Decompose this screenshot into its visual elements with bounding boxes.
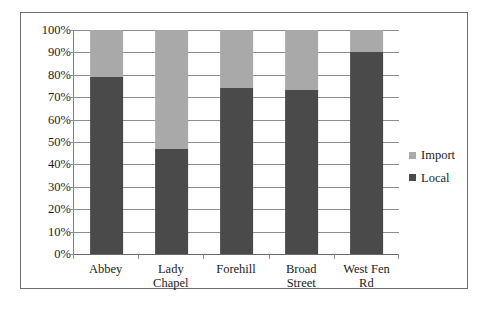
x-axis-tick-mark xyxy=(203,254,204,259)
x-axis-category-label-line: Rd xyxy=(334,276,399,290)
bar-segment-import[interactable] xyxy=(90,30,124,77)
y-axis-tick-label: 90% xyxy=(25,46,71,59)
bar-segment-local[interactable] xyxy=(285,90,319,254)
legend-item-label: Local xyxy=(421,172,449,185)
y-axis-tick-label: 50% xyxy=(25,136,71,149)
x-axis-category-label-line: Forehill xyxy=(203,262,268,276)
bar-slot xyxy=(74,30,139,254)
bar-series-layer xyxy=(74,30,399,254)
stacked-bar[interactable] xyxy=(90,30,124,254)
y-axis-tick-label: 100% xyxy=(25,24,71,37)
bar-slot xyxy=(334,30,399,254)
x-axis-category-label: LadyChapel xyxy=(138,262,203,291)
y-axis: 100%90%80%70%60%50%40%30%20%10%0% xyxy=(25,30,71,254)
legend-item[interactable]: Local xyxy=(409,172,467,185)
bar-segment-import[interactable] xyxy=(220,30,254,88)
x-axis-category-label-line: Street xyxy=(269,276,334,290)
x-axis-category-label: BroadStreet xyxy=(269,262,334,291)
bar-slot xyxy=(269,30,334,254)
bar-segment-import[interactable] xyxy=(350,30,384,52)
x-axis-category-label: Abbey xyxy=(73,262,138,291)
stacked-bar[interactable] xyxy=(350,30,384,254)
bar-segment-local[interactable] xyxy=(155,149,189,254)
y-axis-tick-label: 20% xyxy=(25,203,71,216)
x-axis-tick-cell xyxy=(269,254,334,259)
x-axis-category-label: Forehill xyxy=(203,262,268,291)
y-axis-tick-label: 0% xyxy=(25,248,71,261)
chart-legend: ImportLocal xyxy=(409,149,467,194)
y-axis-tick-label: 70% xyxy=(25,91,71,104)
bar-segment-import[interactable] xyxy=(285,30,319,90)
x-axis-category-label: West FenRd xyxy=(334,262,399,291)
x-axis-ticks xyxy=(73,254,399,259)
bar-segment-local[interactable] xyxy=(90,77,124,254)
bar-segment-import[interactable] xyxy=(155,30,189,149)
y-axis-tick-label: 30% xyxy=(25,181,71,194)
x-axis-tick-mark xyxy=(269,254,270,259)
bar-segment-local[interactable] xyxy=(220,88,254,254)
legend-item-label: Import xyxy=(421,149,455,162)
x-axis-tick-mark xyxy=(138,254,139,259)
x-axis-tick-cell xyxy=(73,254,138,259)
x-axis-tick-mark xyxy=(398,254,399,259)
x-axis-tick-mark xyxy=(334,254,335,259)
stacked-bar[interactable] xyxy=(220,30,254,254)
x-axis-category-label-line: Chapel xyxy=(138,276,203,290)
bar-slot xyxy=(204,30,269,254)
x-axis-tick-cell xyxy=(138,254,203,259)
y-axis-tick-label: 10% xyxy=(25,225,71,238)
chart-frame: 100%90%80%70%60%50%40%30%20%10%0% AbbeyL… xyxy=(20,12,468,289)
x-axis-tick-cell xyxy=(203,254,268,259)
x-axis-category-label-line: Broad xyxy=(269,262,334,276)
x-axis-category-label-line: Abbey xyxy=(73,262,138,276)
y-axis-tick-label: 80% xyxy=(25,69,71,82)
legend-swatch-icon xyxy=(409,174,416,181)
plot-area xyxy=(73,30,399,254)
bar-slot xyxy=(139,30,204,254)
x-axis-category-label-line: Lady xyxy=(138,262,203,276)
legend-item[interactable]: Import xyxy=(409,149,467,162)
x-axis-category-label-line: West Fen xyxy=(334,262,399,276)
bar-segment-local[interactable] xyxy=(350,52,384,254)
y-axis-tick-label: 40% xyxy=(25,158,71,171)
y-axis-tick-label: 60% xyxy=(25,113,71,126)
stacked-bar[interactable] xyxy=(155,30,189,254)
stacked-bar[interactable] xyxy=(285,30,319,254)
legend-swatch-icon xyxy=(409,152,416,159)
x-axis-labels: AbbeyLadyChapelForehillBroadStreetWest F… xyxy=(73,262,399,291)
x-axis-tick-cell xyxy=(334,254,399,259)
x-axis-tick-mark xyxy=(73,254,74,259)
chart-plot-wrapper: 100%90%80%70%60%50%40%30%20%10%0% AbbeyL… xyxy=(21,13,467,288)
